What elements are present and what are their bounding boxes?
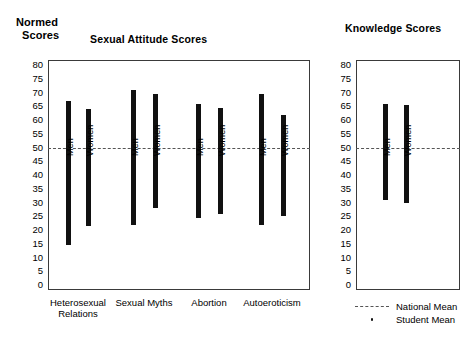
y-tick-label: 70 bbox=[32, 88, 43, 98]
y-tick-label: 55 bbox=[340, 129, 351, 139]
legend-item-national-mean: National Mean bbox=[352, 300, 457, 313]
y-axis-sexual-attitude: 80757065605550454035302520151050 bbox=[20, 60, 46, 290]
bar-group-label-men: Men bbox=[258, 138, 268, 156]
range-bar bbox=[259, 94, 264, 225]
legend: National Mean Student Mean bbox=[352, 300, 457, 326]
y-tick-label: 40 bbox=[340, 170, 351, 180]
legend-label-national-mean: National Mean bbox=[396, 301, 457, 312]
y-tick-label: 80 bbox=[340, 60, 351, 70]
y-tick-label: 60 bbox=[340, 115, 351, 125]
y-tick-label: 30 bbox=[32, 198, 43, 208]
y-axis-title: Normed Scores bbox=[16, 16, 59, 41]
y-tick-label: 25 bbox=[340, 212, 351, 222]
y-axis-knowledge: 80757065605550454035302520151050 bbox=[328, 60, 354, 290]
y-tick-label: 0 bbox=[38, 280, 43, 290]
range-bar bbox=[196, 104, 201, 218]
bar-group-label-women: Women bbox=[152, 124, 162, 155]
y-tick-label: 5 bbox=[38, 267, 43, 277]
y-tick-label: 25 bbox=[32, 212, 43, 222]
bar-group-label-men: Men bbox=[65, 138, 75, 156]
y-tick-label: 45 bbox=[340, 157, 351, 167]
bar-group-label-women: Women bbox=[85, 124, 95, 155]
bar-group-label-men: Men bbox=[130, 138, 140, 156]
dot-icon bbox=[352, 318, 392, 321]
y-tick-label: 10 bbox=[32, 253, 43, 263]
y-tick-label: 75 bbox=[32, 74, 43, 84]
bar-group-label-women: Women bbox=[403, 124, 413, 155]
chart-canvas: Normed Scores Sexual Attitude Scores Kno… bbox=[0, 0, 471, 342]
chart-title-knowledge: Knowledge Scores bbox=[345, 22, 441, 34]
y-tick-label: 30 bbox=[340, 198, 351, 208]
dashed-line-icon bbox=[352, 306, 392, 307]
y-tick-label: 35 bbox=[340, 184, 351, 194]
x-axis-category-label: Autoeroticism bbox=[227, 297, 317, 308]
student-mean-dot bbox=[384, 127, 387, 130]
y-tick-label: 65 bbox=[340, 102, 351, 112]
y-tick-label: 50 bbox=[340, 143, 351, 153]
range-bar bbox=[218, 108, 223, 214]
range-bar bbox=[131, 90, 136, 225]
bar-group-label-men: Men bbox=[195, 138, 205, 156]
y-tick-label: 70 bbox=[340, 88, 351, 98]
y-tick-label: 55 bbox=[32, 129, 43, 139]
bar-group-label-men: Men bbox=[382, 138, 392, 156]
legend-item-student-mean: Student Mean bbox=[352, 313, 457, 326]
y-tick-label: 75 bbox=[340, 74, 351, 84]
y-tick-label: 10 bbox=[340, 253, 351, 263]
y-axis-title-line2: Scores bbox=[22, 29, 59, 42]
y-tick-label: 15 bbox=[340, 239, 351, 249]
y-tick-label: 80 bbox=[32, 60, 43, 70]
y-tick-label: 60 bbox=[32, 115, 43, 125]
y-tick-label: 5 bbox=[346, 267, 351, 277]
y-tick-label: 65 bbox=[32, 102, 43, 112]
y-tick-label: 40 bbox=[32, 170, 43, 180]
range-bar bbox=[66, 101, 71, 245]
bar-group-label-women: Women bbox=[280, 124, 290, 155]
y-tick-label: 45 bbox=[32, 157, 43, 167]
y-tick-label: 35 bbox=[32, 184, 43, 194]
bar-group-label-women: Women bbox=[217, 124, 227, 155]
y-tick-label: 50 bbox=[32, 143, 43, 153]
y-tick-label: 0 bbox=[346, 280, 351, 290]
y-tick-label: 20 bbox=[32, 225, 43, 235]
legend-label-student-mean: Student Mean bbox=[396, 314, 455, 325]
y-axis-title-line1: Normed bbox=[16, 16, 59, 29]
y-tick-label: 15 bbox=[32, 239, 43, 249]
chart-title-sexual-attitude: Sexual Attitude Scores bbox=[90, 33, 207, 45]
y-tick-label: 20 bbox=[340, 225, 351, 235]
